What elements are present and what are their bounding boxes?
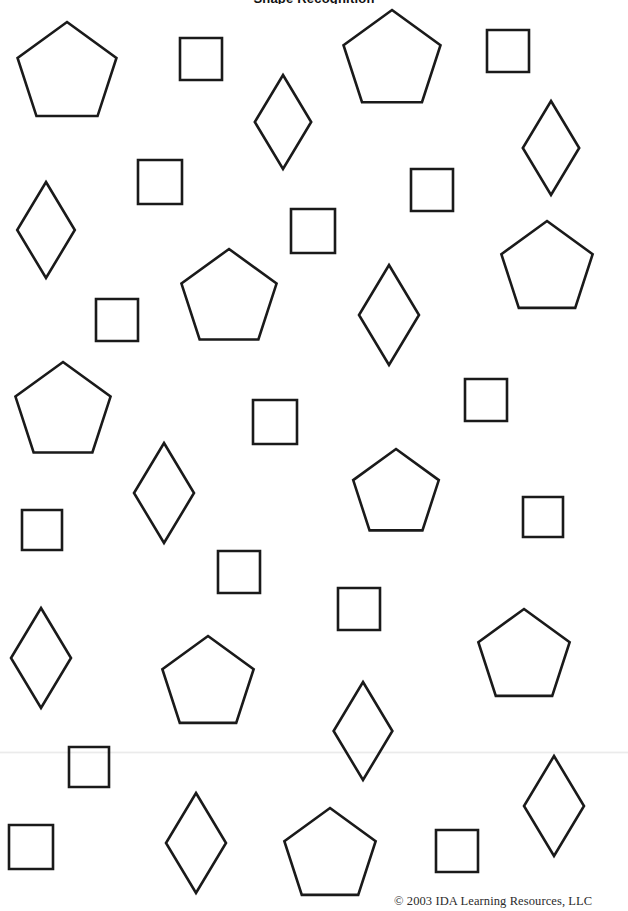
shape-pentagon[interactable]	[284, 808, 375, 895]
shape-square[interactable]	[411, 169, 453, 211]
shape-square[interactable]	[218, 551, 260, 593]
shape-square[interactable]	[22, 510, 62, 550]
shape-square[interactable]	[96, 299, 138, 341]
shape-square[interactable]	[253, 400, 297, 444]
shape-square[interactable]	[523, 497, 563, 537]
shape-square[interactable]	[180, 38, 222, 80]
shape-rhombus[interactable]	[166, 793, 226, 893]
shape-pentagon[interactable]	[18, 22, 117, 116]
shape-square[interactable]	[291, 209, 335, 253]
shape-rhombus[interactable]	[524, 756, 584, 856]
shape-square[interactable]	[138, 160, 182, 204]
shape-pentagon[interactable]	[181, 249, 276, 339]
copyright-notice: © 2003 IDA Learning Resources, LLC	[394, 894, 628, 911]
shape-canvas	[0, 0, 628, 911]
shape-rhombus[interactable]	[523, 101, 579, 195]
shape-pentagon[interactable]	[162, 636, 253, 723]
shape-rhombus[interactable]	[255, 75, 311, 169]
shape-square[interactable]	[69, 747, 109, 787]
shape-rhombus[interactable]	[17, 182, 75, 278]
shape-pentagon[interactable]	[501, 221, 592, 308]
shape-rhombus[interactable]	[11, 608, 71, 708]
shape-pentagon[interactable]	[478, 609, 569, 696]
shape-square[interactable]	[465, 379, 507, 421]
shape-group	[9, 10, 593, 895]
shape-pentagon[interactable]	[353, 449, 439, 530]
shape-square[interactable]	[436, 830, 478, 872]
shape-rhombus[interactable]	[359, 265, 419, 365]
shape-square[interactable]	[9, 825, 53, 869]
shape-square[interactable]	[338, 588, 380, 630]
shape-square[interactable]	[487, 30, 529, 72]
shape-pentagon[interactable]	[344, 10, 441, 102]
shape-rhombus[interactable]	[334, 682, 393, 780]
shape-rhombus[interactable]	[134, 443, 194, 543]
worksheet-page: Shape Recognition © 2003 IDA Learning Re…	[0, 0, 628, 911]
shape-pentagon[interactable]	[15, 362, 110, 452]
